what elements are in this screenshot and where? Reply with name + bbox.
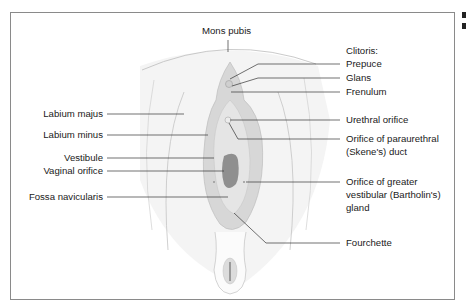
label-fourchette: Fourchette [346, 237, 392, 249]
label-fossa-navicularis: Fossa navicularis [29, 191, 103, 203]
label-labium-majus: Labium majus [43, 108, 103, 120]
label-vaginal-orifice: Vaginal orifice [43, 165, 103, 177]
label-mons-pubis: Mons pubis [202, 25, 251, 37]
label-paraurethral-line2: (Skene's) duct [346, 146, 407, 158]
label-paraurethral-line1: Orifice of paraurethral [346, 133, 439, 145]
label-bartholin-line1: Orifice of greater [346, 176, 417, 188]
glans-shape [226, 81, 233, 88]
vaginal-orifice-shape [222, 154, 239, 188]
label-bartholin-line3: gland [346, 202, 369, 214]
label-bartholin-line2: vestibular (Bartholin's) [346, 189, 441, 201]
label-glans: Glans [346, 72, 371, 84]
label-frenulum: Frenulum [346, 86, 387, 98]
label-urethral-orifice: Urethral orifice [346, 114, 408, 126]
bartholin-orifice-left [213, 181, 215, 183]
bartholin-orifice-right [243, 181, 245, 183]
label-labium-minus: Labium minus [43, 129, 103, 141]
label-prepuce: Prepuce [346, 58, 382, 70]
label-clitoris-heading: Clitoris: [346, 45, 378, 57]
label-vestibule: Vestibule [64, 152, 103, 164]
